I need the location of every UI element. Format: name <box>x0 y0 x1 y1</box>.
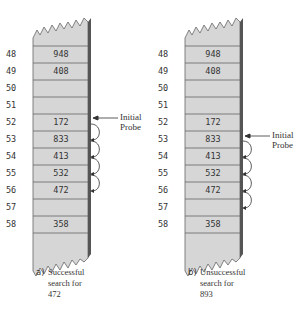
row-label: 48 <box>6 49 28 59</box>
cell-value: 358 <box>34 219 88 229</box>
caption-tag: a) <box>36 267 45 277</box>
row-label: 52 <box>6 117 28 127</box>
row-label: 56 <box>158 185 180 195</box>
panel-unsuccessful-search: 48 49 50 51 52 53 54 55 56 57 58 948 408… <box>152 0 306 312</box>
caption-body: Successful search for 472 <box>48 267 128 300</box>
caption-line: search for <box>200 278 280 289</box>
panel-successful-search: 48 49 50 51 52 53 54 55 56 57 58 948 408… <box>0 0 154 312</box>
row-label: 58 <box>6 219 28 229</box>
cell-value: 948 <box>186 49 240 59</box>
row-label: 57 <box>6 202 28 212</box>
initial-probe-arrow <box>93 116 118 120</box>
caption-a: a) Successful search for 472 <box>36 267 48 278</box>
row-label: 58 <box>158 219 180 229</box>
row-label: 48 <box>158 49 180 59</box>
caption-tag: b) <box>188 267 197 277</box>
caption-body: Unsuccessful search for 893 <box>200 267 280 300</box>
row-label: 56 <box>6 185 28 195</box>
row-label: 49 <box>158 66 180 76</box>
row-label: 51 <box>6 100 28 110</box>
initial-probe-arrow <box>245 134 270 138</box>
row-label: 57 <box>158 202 180 212</box>
probe-label-line: Probe <box>272 140 294 150</box>
row-label: 50 <box>6 83 28 93</box>
caption-b: b) Unsuccessful search for 893 <box>188 267 200 278</box>
probe-label-line: Probe <box>120 122 142 132</box>
row-label: 54 <box>6 151 28 161</box>
cell-value: 408 <box>186 66 240 76</box>
probe-label-line: Initial <box>272 130 294 140</box>
initial-probe-label: Initial Probe <box>272 130 294 150</box>
cell-value: 408 <box>34 66 88 76</box>
cell-value: 358 <box>186 219 240 229</box>
caption-line: Unsuccessful <box>200 267 280 278</box>
cell-value: 833 <box>34 134 88 144</box>
caption-line: Successful <box>48 267 128 278</box>
cell-value: 472 <box>34 185 88 195</box>
probe-label-line: Initial <box>120 112 142 122</box>
row-label: 55 <box>158 168 180 178</box>
row-label: 49 <box>6 66 28 76</box>
cell-value: 833 <box>186 134 240 144</box>
cell-value: 172 <box>186 117 240 127</box>
caption-line: 472 <box>48 289 128 300</box>
row-label: 53 <box>6 134 28 144</box>
cell-value: 948 <box>34 49 88 59</box>
caption-line: search for <box>48 278 128 289</box>
cell-value: 532 <box>186 168 240 178</box>
cell-value: 413 <box>186 151 240 161</box>
caption-line: 893 <box>200 289 280 300</box>
cell-value: 413 <box>34 151 88 161</box>
row-label: 50 <box>158 83 180 93</box>
shadow-bar <box>240 18 243 258</box>
row-label: 55 <box>6 168 28 178</box>
row-label: 52 <box>158 117 180 127</box>
initial-probe-label: Initial Probe <box>120 112 142 132</box>
row-label: 53 <box>158 134 180 144</box>
shadow-bar <box>88 18 91 258</box>
row-label: 54 <box>158 151 180 161</box>
row-label: 51 <box>158 100 180 110</box>
cell-value: 532 <box>34 168 88 178</box>
cell-value: 172 <box>34 117 88 127</box>
cell-value: 472 <box>186 185 240 195</box>
